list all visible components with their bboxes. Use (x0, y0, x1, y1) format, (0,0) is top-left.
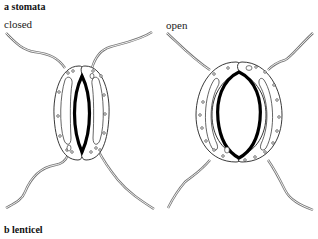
open-pore (218, 72, 261, 158)
open-stoma (167, 33, 313, 210)
closed-stoma (6, 32, 154, 209)
closed-pore (75, 76, 90, 152)
stomata-illustration (0, 0, 318, 239)
